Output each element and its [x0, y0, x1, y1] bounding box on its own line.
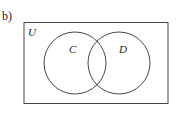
venn-diagram-graphic	[0, 0, 183, 116]
universal-set-rectangle	[24, 23, 168, 104]
universal-set-label: U	[28, 27, 36, 38]
set-c-label: C	[69, 44, 76, 55]
set-d-circle	[88, 32, 150, 94]
part-label: b)	[2, 10, 12, 22]
set-d-label: D	[119, 44, 127, 55]
